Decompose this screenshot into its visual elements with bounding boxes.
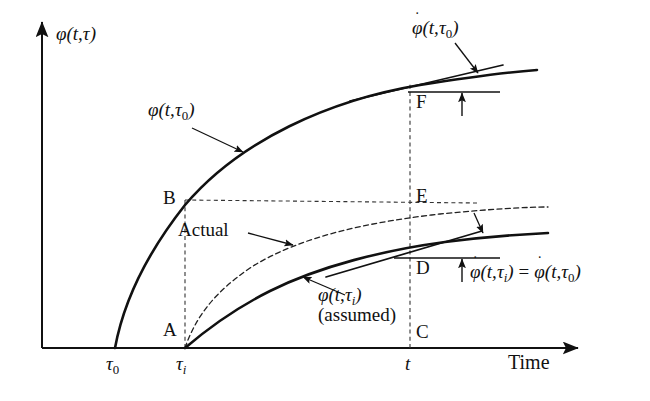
phi-tau0-tau: τ — [175, 99, 182, 120]
tau0-subscript: 0 — [113, 362, 119, 377]
phidot-taui-close: ) — [507, 261, 513, 282]
phidot-tau0-dot: ˙ — [415, 10, 420, 26]
phidot-tau0b-args: (t, — [545, 261, 561, 282]
phidot-tau0b-close: ) — [574, 261, 580, 282]
y-axis-label: φ(t,τ) — [56, 24, 96, 44]
assumed-tau: τ — [345, 284, 352, 305]
assumed-close: ) — [355, 284, 361, 305]
point-label-F: F — [416, 92, 427, 112]
assumed-line2: (assumed) — [318, 305, 396, 325]
phidot-tau0-args: (t, — [423, 17, 439, 38]
tangent-line-at-D — [326, 231, 482, 277]
point-label-A: A — [163, 320, 177, 340]
phi-tau0-args: (t, — [159, 99, 175, 120]
phidot-taui-tau: τ — [497, 261, 504, 282]
phidot-tau0b-symbol: ˙φ — [534, 262, 545, 282]
phidot-tau0-symbol: ˙φ — [412, 18, 423, 38]
taui-base: τ — [176, 353, 183, 374]
point-label-D: D — [416, 258, 430, 278]
leader-arrow-phi-tau0 — [192, 128, 243, 152]
taui-subscript: i — [183, 362, 187, 377]
leader-arrow-phidot-tau0 — [455, 43, 478, 73]
phidot-tau0-tau: τ — [439, 17, 446, 38]
assumed-args: (t, — [329, 284, 345, 305]
phidot-tau0-close: ) — [452, 17, 458, 38]
figure-canvas: φ(t,τ) Time τ0 τi t A B C D E F φ(t,τ0) … — [0, 0, 650, 401]
tau0-base: τ — [106, 353, 113, 374]
assumed-base: φ — [318, 284, 329, 305]
point-label-B: B — [163, 188, 176, 208]
annotation-derivative-equality: ˙φ(t,τi)=˙φ(t,τ0) — [470, 262, 581, 284]
x-tick-taui: τi — [176, 354, 186, 376]
horizontal-dashed-B-E — [185, 200, 478, 203]
phidot-taui-args: (t, — [481, 261, 497, 282]
leader-arrow-actual-gap — [474, 213, 483, 233]
annotation-actual: Actual — [178, 220, 229, 240]
phi-tau0-base: φ — [148, 99, 159, 120]
phi-tau0-close: ) — [188, 99, 194, 120]
leader-arrow-actual — [248, 233, 293, 245]
phidot-taui-symbol: ˙φ — [470, 262, 481, 282]
annotation-phidot-tau0: ˙φ(t,τ0) — [412, 18, 458, 40]
phidot-tau0b-dot: ˙ — [537, 254, 542, 270]
equality-sign: = — [519, 261, 530, 282]
x-tick-t: t — [405, 354, 410, 374]
diagram-svg — [0, 0, 650, 401]
point-label-E: E — [416, 186, 428, 206]
point-label-C: C — [416, 322, 429, 342]
x-tick-tau0: τ0 — [106, 354, 119, 376]
x-axis-label: Time — [508, 352, 550, 373]
phidot-tau0b-tau: τ — [561, 261, 568, 282]
annotation-phi-tau0: φ(t,τ0) — [148, 100, 194, 122]
annotation-assumed: φ(t,τi) (assumed) — [318, 285, 396, 325]
phidot-taui-dot: ˙ — [473, 254, 478, 270]
